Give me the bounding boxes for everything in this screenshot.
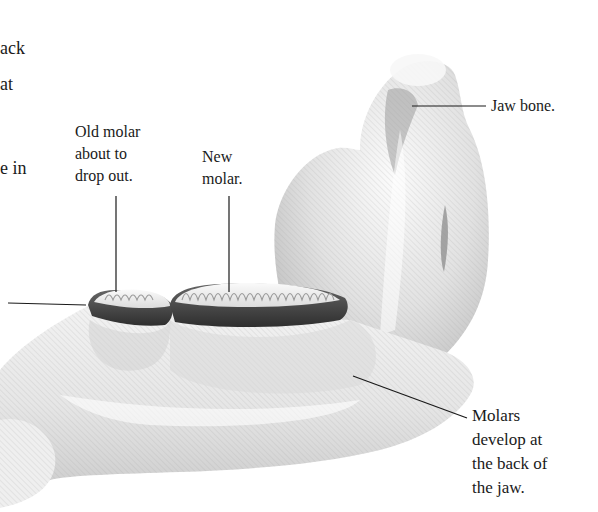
label-new-molar: New molar. (202, 146, 242, 190)
label-jaw-bone: Jaw bone. (491, 95, 555, 117)
cut-off-text-line-4: e in (0, 150, 27, 186)
jaw-diagram: ack at e in Old molar about to drop out.… (0, 0, 598, 512)
label-molars-develop: Molars develop at the back of the jaw. (472, 404, 548, 500)
cut-off-text-line-2: at (0, 66, 13, 102)
leader-left-partial (8, 303, 86, 305)
label-old-molar: Old molar about to drop out. (75, 121, 140, 187)
cut-off-text-line-1: ack (0, 30, 25, 66)
